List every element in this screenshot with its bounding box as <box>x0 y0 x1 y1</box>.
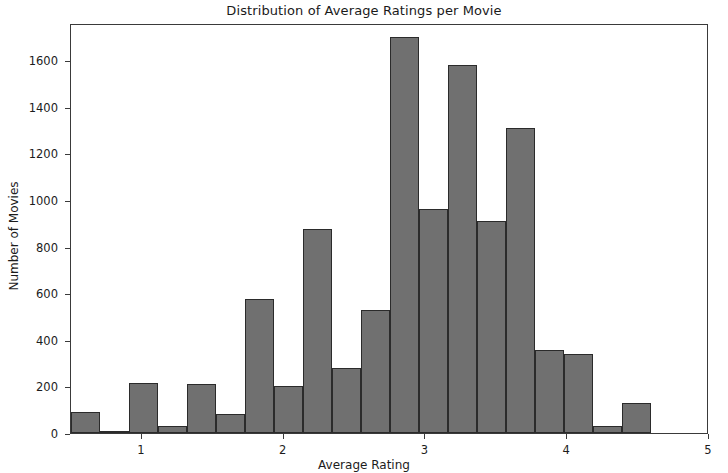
y-tick-label: 400 <box>36 334 58 348</box>
histogram-bar <box>564 354 593 433</box>
x-tick-mark <box>566 434 567 439</box>
y-tick-label: 1400 <box>29 101 58 115</box>
y-tick-label: 1600 <box>29 54 58 68</box>
y-tick-label: 600 <box>36 287 58 301</box>
histogram-bar <box>303 229 332 433</box>
figure-canvas: Distribution of Average Ratings per Movi… <box>0 0 728 473</box>
x-axis: Average Rating 12345 <box>0 434 728 473</box>
histogram-bar <box>477 221 506 433</box>
histogram-bar <box>390 37 419 433</box>
histogram-bar <box>71 412 100 433</box>
chart-title: Distribution of Average Ratings per Movi… <box>0 3 728 18</box>
histogram-bar <box>448 65 477 433</box>
x-tick-mark <box>424 434 425 439</box>
x-axis-label: Average Rating <box>0 458 728 472</box>
x-tick-label: 1 <box>137 443 144 457</box>
histogram-bar <box>506 128 535 433</box>
histogram-bar <box>593 426 622 433</box>
histogram-bar <box>129 383 158 433</box>
histogram-bar <box>187 384 216 433</box>
x-tick-mark <box>141 434 142 439</box>
x-tick-mark <box>708 434 709 439</box>
y-tick-label: 200 <box>36 380 58 394</box>
x-tick-mark <box>283 434 284 439</box>
y-tick-label: 800 <box>36 241 58 255</box>
x-tick-label: 5 <box>704 443 711 457</box>
histogram-bar <box>216 414 245 433</box>
histogram-bar <box>361 310 390 433</box>
histogram-bar <box>274 386 303 433</box>
y-axis: Number of Movies 02004006008001000120014… <box>0 0 70 473</box>
histogram-bar <box>245 299 274 433</box>
histogram-bar <box>158 426 187 433</box>
histogram-bar <box>622 403 651 433</box>
x-tick-label: 2 <box>279 443 286 457</box>
histogram-bar <box>332 368 361 433</box>
histogram-bar <box>100 431 129 433</box>
y-tick-label: 1200 <box>29 147 58 161</box>
y-tick-label: 1000 <box>29 194 58 208</box>
plot-area <box>70 24 708 434</box>
histogram-bars <box>71 25 707 433</box>
x-tick-label: 4 <box>563 443 570 457</box>
histogram-bar <box>419 209 448 433</box>
histogram-bar <box>535 350 564 433</box>
y-axis-label: Number of Movies <box>7 136 21 336</box>
x-tick-label: 3 <box>421 443 428 457</box>
